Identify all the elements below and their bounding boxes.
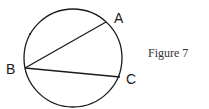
chord-bc (25, 68, 120, 77)
chord-ba (25, 22, 106, 68)
tick-mark (29, 33, 31, 35)
label-c: C (126, 71, 136, 87)
circle (24, 9, 122, 107)
figure-caption: Figure 7 (148, 46, 188, 61)
label-b: B (6, 61, 15, 77)
label-a: A (114, 10, 124, 26)
